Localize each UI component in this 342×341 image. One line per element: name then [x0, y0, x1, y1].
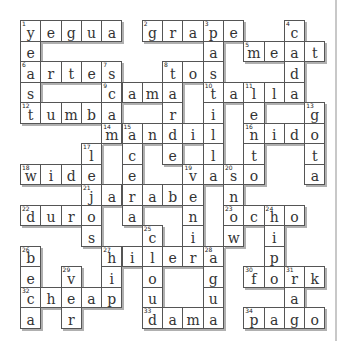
crossword-cell[interactable]: g [284, 307, 305, 329]
crossword-cell[interactable]: e [223, 20, 244, 42]
crossword-cell[interactable]: 26b [20, 246, 41, 268]
crossword-cell[interactable]: 6a [20, 61, 41, 83]
crossword-cell[interactable]: d [61, 164, 82, 186]
crossword-cell[interactable]: m [182, 307, 203, 329]
crossword-cell[interactable]: a [304, 164, 325, 186]
crossword-cell[interactable]: t [304, 143, 325, 165]
crossword-cell[interactable]: a [162, 307, 183, 329]
crossword-cell[interactable]: 10t [203, 82, 224, 104]
crossword-cell[interactable]: n [142, 123, 163, 145]
crossword-cell[interactable]: a [101, 102, 122, 124]
crossword-cell[interactable]: 27h [101, 246, 122, 268]
crossword-cell[interactable]: r [162, 20, 183, 42]
crossword-cell[interactable]: a [122, 82, 143, 104]
crossword-cell[interactable]: a [101, 20, 122, 42]
crossword-cell[interactable]: 11l [243, 82, 264, 104]
crossword-cell[interactable]: 9c [101, 82, 122, 104]
crossword-cell[interactable]: a [81, 287, 102, 309]
crossword-cell[interactable]: c [243, 205, 264, 227]
crossword-cell[interactable]: 22d [20, 205, 41, 227]
crossword-cell[interactable]: e [20, 41, 41, 63]
crossword-cell[interactable]: o [182, 61, 203, 83]
crossword-cell[interactable]: a [20, 307, 41, 329]
crossword-cell[interactable]: a [223, 82, 244, 104]
crossword-cell[interactable]: n [182, 205, 203, 227]
crossword-cell[interactable]: w [223, 225, 244, 247]
crossword-cell[interactable]: 28a [203, 246, 224, 268]
crossword-cell[interactable]: t [243, 143, 264, 165]
crossword-cell[interactable]: n [223, 184, 244, 206]
crossword-cell[interactable]: c [122, 143, 143, 165]
crossword-cell[interactable]: a [162, 82, 183, 104]
crossword-cell[interactable]: e [243, 102, 264, 124]
crossword-cell[interactable]: a [284, 82, 305, 104]
crossword-cell[interactable]: e [61, 287, 82, 309]
crossword-cell[interactable]: i [203, 102, 224, 124]
crossword-cell[interactable]: t [304, 41, 325, 63]
crossword-cell[interactable]: d [162, 123, 183, 145]
crossword-cell[interactable]: g [61, 20, 82, 42]
crossword-cell[interactable]: a [284, 41, 305, 63]
crossword-cell[interactable]: b [162, 184, 183, 206]
crossword-cell[interactable]: 8t [162, 61, 183, 83]
crossword-cell[interactable]: u [203, 287, 224, 309]
crossword-cell[interactable]: h [40, 287, 61, 309]
crossword-cell[interactable]: a [122, 205, 143, 227]
crossword-cell[interactable]: a [284, 287, 305, 309]
crossword-cell[interactable]: 23o [223, 205, 244, 227]
crossword-cell[interactable]: e [40, 20, 61, 42]
crossword-cell[interactable]: i [264, 123, 285, 145]
crossword-cell[interactable]: s [81, 225, 102, 247]
crossword-cell[interactable]: i [182, 225, 203, 247]
crossword-cell[interactable]: e [81, 164, 102, 186]
crossword-cell[interactable]: 2g [142, 20, 163, 42]
crossword-cell[interactable]: p [264, 246, 285, 268]
crossword-cell[interactable]: 25c [142, 225, 163, 247]
crossword-cell[interactable]: r [61, 205, 82, 227]
crossword-cell[interactable]: 19v [182, 164, 203, 186]
crossword-cell[interactable]: 21j [81, 184, 102, 206]
crossword-cell[interactable]: o [142, 266, 163, 288]
crossword-cell[interactable]: i [101, 266, 122, 288]
crossword-cell[interactable]: s [203, 61, 224, 83]
crossword-cell[interactable]: e [122, 164, 143, 186]
crossword-cell[interactable]: 5m [243, 41, 264, 63]
crossword-cell[interactable]: s [20, 82, 41, 104]
crossword-cell[interactable]: u [40, 205, 61, 227]
crossword-cell[interactable]: d [284, 123, 305, 145]
crossword-cell[interactable]: r [162, 102, 183, 124]
crossword-cell[interactable]: i [40, 164, 61, 186]
crossword-cell[interactable]: r [61, 307, 82, 329]
crossword-cell[interactable]: i [122, 246, 143, 268]
crossword-cell[interactable]: a [203, 307, 224, 329]
crossword-cell[interactable]: 20s [223, 164, 244, 186]
crossword-cell[interactable]: 34p [243, 307, 264, 329]
crossword-cell[interactable]: 3p [203, 20, 224, 42]
crossword-cell[interactable]: 1y [20, 20, 41, 42]
crossword-cell[interactable]: 31r [284, 266, 305, 288]
crossword-cell[interactable]: l [203, 143, 224, 165]
crossword-cell[interactable]: 16n [243, 123, 264, 145]
crossword-cell[interactable]: u [81, 20, 102, 42]
crossword-cell[interactable]: 24h [264, 205, 285, 227]
crossword-cell[interactable]: 14m [101, 123, 122, 145]
crossword-cell[interactable]: e [162, 246, 183, 268]
crossword-cell[interactable]: 4c [284, 20, 305, 42]
crossword-cell[interactable]: e [162, 143, 183, 165]
crossword-cell[interactable]: m [61, 102, 82, 124]
crossword-cell[interactable]: 13g [304, 102, 325, 124]
crossword-cell[interactable]: l [264, 82, 285, 104]
crossword-cell[interactable]: a [101, 184, 122, 206]
crossword-cell[interactable]: a [264, 307, 285, 329]
crossword-cell[interactable]: e [81, 61, 102, 83]
crossword-cell[interactable]: a [203, 41, 224, 63]
crossword-cell[interactable]: 29v [61, 266, 82, 288]
crossword-cell[interactable]: l [203, 123, 224, 145]
crossword-cell[interactable]: o [304, 123, 325, 145]
crossword-cell[interactable]: o [284, 205, 305, 227]
crossword-cell[interactable]: t [61, 61, 82, 83]
crossword-cell[interactable]: o [264, 266, 285, 288]
crossword-cell[interactable]: r [122, 184, 143, 206]
crossword-cell[interactable]: o [243, 164, 264, 186]
crossword-cell[interactable]: o [81, 205, 102, 227]
